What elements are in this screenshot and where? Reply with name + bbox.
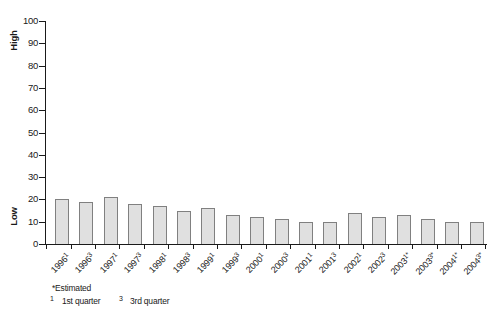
x-tick xyxy=(485,245,486,249)
x-tick xyxy=(290,245,291,249)
x-tick-label-superscript: 3 xyxy=(330,251,338,259)
x-tick-label-text: 20003 xyxy=(268,252,292,276)
x-tick-label-superscript: 3 xyxy=(86,251,94,259)
bar xyxy=(55,199,69,244)
x-tick-label-superscript: 3 xyxy=(233,251,241,259)
y-tick xyxy=(39,199,46,200)
x-tick-label-text: 20023 xyxy=(366,252,390,276)
x-tick-label-superscript: 1 xyxy=(111,251,119,259)
x-tick-label-superscript: 1 xyxy=(355,251,363,259)
bar xyxy=(153,206,167,244)
bar xyxy=(177,211,191,244)
x-tick xyxy=(217,245,218,249)
y-tick-label: 0 xyxy=(13,239,38,249)
y-tick xyxy=(39,222,46,223)
y-tick-label: 40 xyxy=(13,150,38,160)
y-tick-label: 50 xyxy=(13,128,38,138)
x-tick-label-superscript: 3 xyxy=(184,251,192,259)
x-tick-label-text: 19963 xyxy=(73,252,97,276)
bar xyxy=(104,197,118,244)
x-tick-label-superscript: 1 xyxy=(62,251,70,259)
x-tick xyxy=(168,245,169,249)
x-tick-label-text: 19991 xyxy=(195,252,219,276)
bar xyxy=(421,219,435,244)
y-tick-label: 90 xyxy=(13,38,38,48)
x-tick xyxy=(437,245,438,249)
x-tick-label-superscript: 3 xyxy=(281,251,289,259)
y-tick-label: 20 xyxy=(13,194,38,204)
bar-chart: High Low *Estimated 1 1st quarter 3 3rd … xyxy=(0,0,500,323)
x-tick-label-text: 20041* xyxy=(438,252,464,278)
x-tick-label-text: 20011 xyxy=(293,252,317,276)
x-tick-label-superscript: 3* xyxy=(475,251,484,260)
x-tick-label-superscript: 1* xyxy=(402,251,411,260)
x-tick-label-text: 20021 xyxy=(342,252,366,276)
bar xyxy=(79,202,93,244)
y-tick-label: 10 xyxy=(13,217,38,227)
x-tick xyxy=(119,245,120,249)
x-tick xyxy=(95,245,96,249)
footnote-first-quarter-marker: 1 xyxy=(50,294,54,304)
y-tick-label: 80 xyxy=(13,61,38,71)
bar xyxy=(348,213,362,244)
x-tick-label-superscript: 3* xyxy=(426,251,435,260)
y-tick xyxy=(39,21,46,22)
x-tick-label-superscript: 3 xyxy=(135,251,143,259)
x-tick xyxy=(412,245,413,249)
bar xyxy=(275,219,289,244)
footnote-first-quarter-text: 1st quarter xyxy=(62,296,100,306)
x-tick-label-superscript: 1* xyxy=(450,251,459,260)
y-tick-label: 70 xyxy=(13,83,38,93)
x-tick-label-superscript: 1 xyxy=(257,251,265,259)
x-tick-label-superscript: 1 xyxy=(208,251,216,259)
bar xyxy=(372,217,386,244)
x-tick-label-text: 20001 xyxy=(244,252,268,276)
x-tick xyxy=(315,245,316,249)
footnote-third-quarter-text: 3rd quarter xyxy=(130,296,169,306)
bar xyxy=(397,215,411,244)
x-tick-label-text: 19971 xyxy=(98,252,122,276)
bar xyxy=(299,222,313,244)
y-tick xyxy=(39,155,46,156)
y-tick xyxy=(39,177,46,178)
bar xyxy=(445,222,459,244)
y-tick xyxy=(39,66,46,67)
y-tick xyxy=(39,133,46,134)
x-tick-label-superscript: 1 xyxy=(159,251,167,259)
y-tick xyxy=(39,88,46,89)
y-tick xyxy=(39,244,46,245)
x-tick-label-text: 19981 xyxy=(146,252,170,276)
x-tick-label-text: 19983 xyxy=(171,252,195,276)
y-tick-label: 100 xyxy=(13,16,38,26)
bar xyxy=(250,217,264,244)
bar xyxy=(201,208,215,244)
bar xyxy=(470,222,484,244)
x-tick-label-text: 19993 xyxy=(220,252,244,276)
footnote-third-quarter-marker: 3 xyxy=(119,294,123,304)
y-tick-label: 60 xyxy=(13,105,38,115)
x-tick-label-text: 19961 xyxy=(49,252,73,276)
bar xyxy=(128,204,142,244)
x-tick-label-text: 19973 xyxy=(122,252,146,276)
x-tick xyxy=(144,245,145,249)
footnote-estimated: *Estimated xyxy=(52,283,91,293)
bar xyxy=(323,222,337,244)
x-tick-label-text: 20031* xyxy=(389,252,415,278)
x-tick xyxy=(388,245,389,249)
x-tick xyxy=(363,245,364,249)
x-tick-label-text: 20013 xyxy=(317,252,341,276)
bar xyxy=(226,215,240,244)
y-tick xyxy=(39,43,46,44)
x-tick xyxy=(461,245,462,249)
x-tick-label-text: 20033* xyxy=(413,252,439,278)
x-tick xyxy=(266,245,267,249)
x-tick xyxy=(46,245,47,249)
x-tick xyxy=(241,245,242,249)
y-tick xyxy=(39,110,46,111)
x-tick xyxy=(193,245,194,249)
x-tick-label-text: 20043* xyxy=(462,252,488,278)
y-tick-label: 30 xyxy=(13,172,38,182)
x-tick xyxy=(339,245,340,249)
x-tick xyxy=(71,245,72,249)
x-tick-label-superscript: 1 xyxy=(306,251,314,259)
